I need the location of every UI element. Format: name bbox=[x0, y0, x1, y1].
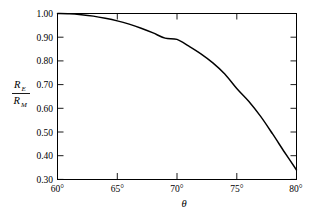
y-axis-ticks-left bbox=[58, 14, 64, 180]
y-tick-label: 0.80 bbox=[36, 56, 53, 66]
y-tick-label: 1.00 bbox=[36, 9, 53, 19]
y-tick-label: 0.50 bbox=[36, 128, 53, 138]
x-tick-labels: 60° 65° 70° 75° 80° bbox=[51, 184, 303, 194]
y-tick-label: 0.60 bbox=[36, 104, 53, 114]
y-axis-ticks-right bbox=[291, 14, 297, 180]
y-axis-label-denominator: R bbox=[13, 95, 21, 106]
x-tick-label: 80° bbox=[289, 184, 303, 194]
y-axis-label-denominator-subscript: M bbox=[20, 101, 28, 109]
x-axis-ticks bbox=[58, 173, 297, 180]
x-tick-label: 65° bbox=[111, 184, 125, 194]
figure-container: 1.00 0.90 0.80 0.70 0.60 0.50 0.40 0.30 … bbox=[0, 0, 313, 215]
plot-frame bbox=[58, 14, 297, 180]
x-tick-label: 60° bbox=[51, 184, 65, 194]
x-tick-label: 75° bbox=[230, 184, 244, 194]
y-tick-label: 0.90 bbox=[36, 33, 53, 43]
x-axis-label: θ bbox=[181, 198, 186, 209]
y-axis-label-numerator: R bbox=[13, 79, 21, 90]
y-tick-label: 0.40 bbox=[36, 151, 53, 161]
data-curve bbox=[58, 14, 297, 171]
chart-svg: 1.00 0.90 0.80 0.70 0.60 0.50 0.40 0.30 … bbox=[0, 0, 313, 215]
y-tick-label: 0.70 bbox=[36, 80, 53, 90]
x-axis-ticks-top bbox=[117, 14, 237, 20]
x-tick-label: 70° bbox=[170, 184, 184, 194]
y-axis-label-numerator-subscript: E bbox=[21, 85, 27, 93]
y-axis-label: R E R M bbox=[12, 79, 30, 109]
y-tick-labels: 1.00 0.90 0.80 0.70 0.60 0.50 0.40 0.30 bbox=[36, 9, 53, 185]
